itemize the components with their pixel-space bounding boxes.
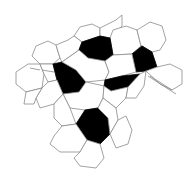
- polygon-mesh: [16, 15, 182, 168]
- light-panel-4: [32, 41, 60, 64]
- soccer-ball-polygon-drawing: [0, 0, 195, 184]
